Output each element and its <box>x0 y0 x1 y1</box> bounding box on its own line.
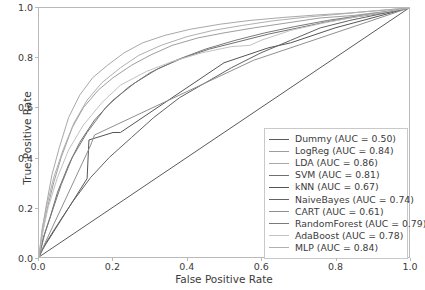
legend-item-dummy[interactable]: Dummy (AUC = 0.50) <box>269 133 402 145</box>
legend-item-label: MLP (AUC = 0.84) <box>295 242 378 254</box>
y-tickmark <box>35 158 38 159</box>
legend-line-icon <box>269 211 289 212</box>
legend-item-label: CART (AUC = 0.61) <box>295 206 384 218</box>
y-axis-label: True Positive Rate <box>21 58 33 218</box>
legend-item-label: AdaBoost (AUC = 0.78) <box>295 230 403 242</box>
y-tickmark <box>35 258 38 259</box>
legend-line-icon <box>269 235 289 236</box>
legend-item-knn[interactable]: kNN (AUC = 0.67) <box>269 181 402 193</box>
legend-line-icon <box>269 247 289 248</box>
roc-curve-figure: False Positive Rate True Positive Rate D… <box>0 0 425 290</box>
legend-item-mlp[interactable]: MLP (AUC = 0.84) <box>269 242 402 254</box>
x-axis-label: False Positive Rate <box>38 273 410 285</box>
y-tick-label: 0.6 <box>18 102 33 113</box>
legend-line-icon <box>269 139 289 140</box>
legend-item-label: NaiveBayes (AUC = 0.74) <box>295 194 414 206</box>
legend-item-cart[interactable]: CART (AUC = 0.61) <box>269 206 402 218</box>
legend-item-label: kNN (AUC = 0.67) <box>295 181 379 193</box>
x-tick-label: 0.6 <box>254 261 269 272</box>
legend-item-lda[interactable]: LDA (AUC = 0.86) <box>269 157 402 169</box>
y-tickmark <box>35 7 38 8</box>
x-tick-label: 0.2 <box>105 261 120 272</box>
legend-item-naivebayes[interactable]: NaiveBayes (AUC = 0.74) <box>269 193 402 205</box>
y-tickmark <box>35 107 38 108</box>
y-tickmark <box>35 57 38 58</box>
legend-item-svm[interactable]: SVM (AUC = 0.81) <box>269 169 402 181</box>
y-tick-label: 0.2 <box>18 202 33 213</box>
legend-item-label: Dummy (AUC = 0.50) <box>295 133 396 145</box>
y-tick-label: 0.4 <box>18 152 33 163</box>
legend-line-icon <box>269 175 289 176</box>
x-tick-label: 0.4 <box>179 261 194 272</box>
x-tick-label: 1.0 <box>402 261 417 272</box>
legend-item-adaboost[interactable]: AdaBoost (AUC = 0.78) <box>269 230 402 242</box>
legend-line-icon <box>269 163 289 164</box>
legend-line-icon <box>269 187 289 188</box>
y-tick-label: 1.0 <box>18 2 33 13</box>
legend-item-logreg[interactable]: LogReg (AUC = 0.84) <box>269 145 402 157</box>
legend-line-icon <box>269 199 289 200</box>
legend-line-icon <box>269 151 289 152</box>
legend-item-label: LogReg (AUC = 0.84) <box>295 145 394 157</box>
x-tick-label: 0.8 <box>328 261 343 272</box>
legend: Dummy (AUC = 0.50)LogReg (AUC = 0.84)LDA… <box>264 128 408 259</box>
y-tickmark <box>35 208 38 209</box>
legend-item-label: LDA (AUC = 0.86) <box>295 157 378 169</box>
y-tick-label: 0.0 <box>18 253 33 264</box>
legend-item-label: SVM (AUC = 0.81) <box>295 169 380 181</box>
legend-item-label: RandomForest (AUC = 0.79) <box>295 218 425 230</box>
legend-item-randomforest[interactable]: RandomForest (AUC = 0.79) <box>269 218 402 230</box>
y-tick-label: 0.8 <box>18 52 33 63</box>
legend-line-icon <box>269 223 289 224</box>
